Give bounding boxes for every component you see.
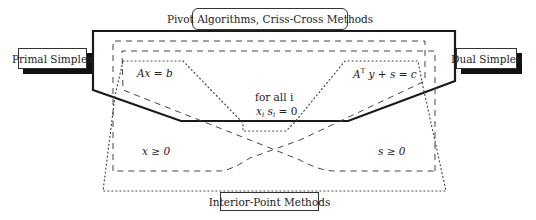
equals-zero: = 0 <box>275 105 297 117</box>
s-nonnegativity-label: s ≥ 0 <box>378 146 406 157</box>
dual-feasibility-label: AT y + s = c <box>353 68 417 80</box>
x-nonnegativity-label: x ≥ 0 <box>142 146 170 157</box>
primal-simplex-label: Primal Simplex <box>18 48 87 69</box>
pivot-algorithms-label: Pivot Algorithms, Criss-Cross Methods <box>192 8 348 30</box>
complementarity-condition: xi si = 0 <box>256 106 297 119</box>
complementarity-quantifier: for all i <box>255 92 293 103</box>
interior-point-methods-label: Interior-Point Methods <box>220 192 319 211</box>
dual-feasibility-a: A <box>353 68 361 80</box>
dual-simplex-label: Dual Simplex <box>456 48 517 69</box>
optimization-methods-diagram: Pivot Algorithms, Criss-Cross Methods Pr… <box>0 0 536 220</box>
var-s: s <box>264 105 273 117</box>
dual-feasibility-rest: y + s = c <box>365 68 417 80</box>
primal-feasibility-label: Ax = b <box>137 68 173 79</box>
